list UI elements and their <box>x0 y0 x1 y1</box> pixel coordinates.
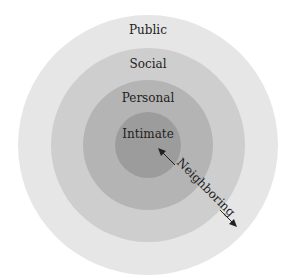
personal-label: Personal <box>122 91 175 105</box>
proxemics-diagram: Public Social Personal Intimate Neighbor… <box>0 0 295 278</box>
intimate-label: Intimate <box>122 127 174 141</box>
public-label: Public <box>129 23 167 37</box>
intimate-zone <box>115 112 181 178</box>
social-label: Social <box>130 57 167 71</box>
